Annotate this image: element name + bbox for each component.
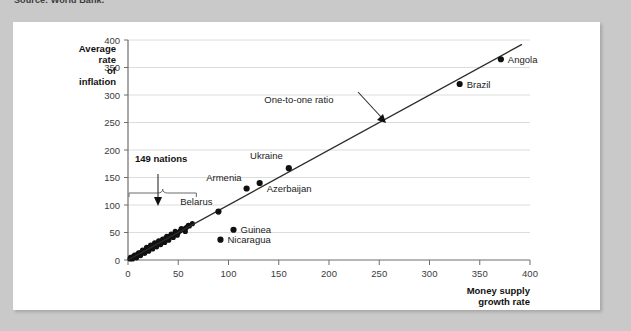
point-label-armenia: Armenia	[206, 172, 242, 183]
y-tick-label: 250	[104, 117, 120, 128]
x-tick-label: 100	[221, 268, 237, 279]
labeled-point-belarus	[215, 209, 221, 215]
labeled-point-nicaragua	[217, 237, 223, 243]
x-axis-ticks	[128, 260, 530, 265]
labeled-point-angola	[498, 56, 504, 62]
point-label-nicaragua: Nicaragua	[227, 234, 271, 245]
point-label-azerbaijan: Azerbaijan	[267, 183, 312, 194]
annotation-one-to-one-ratio: One-to-one ratio	[264, 94, 333, 105]
y-tick-label: 50	[109, 227, 120, 238]
ratio-arrow-shaft	[358, 92, 382, 118]
x-axis-title: Money supplygrowth rate	[467, 285, 531, 307]
x-tick-label: 400	[522, 268, 538, 279]
y-tick-label: 300	[104, 90, 120, 101]
point-label-brazil: Brazil	[467, 79, 491, 90]
source-caption: Source: World Bank.	[14, 0, 104, 5]
y-tick-label: 150	[104, 172, 120, 183]
labeled-point-armenia	[243, 185, 249, 191]
point-label-belarus: Belarus	[180, 196, 212, 207]
x-tick-label: 0	[125, 268, 130, 279]
one-to-one-ratio-annotation	[358, 92, 386, 123]
x-tick-label: 350	[472, 268, 488, 279]
x-tick-label: 250	[371, 268, 387, 279]
x-tick-label: 50	[173, 268, 184, 279]
point-label-ukraine: Ukraine	[250, 150, 283, 161]
point-label-angola: Angola	[508, 54, 538, 65]
annotation-149-nations: 149 nations	[135, 153, 187, 164]
y-tick-label: 0	[115, 255, 120, 266]
labeled-point-guinea	[230, 227, 236, 233]
x-tick-label: 150	[271, 268, 287, 279]
chart-text-layer: 0501001502002503003504000501001502002503…	[79, 35, 538, 308]
y-axis-title: Averagerateofinflation	[79, 43, 117, 87]
figure-panel: 0501001502002503003504000501001502002503…	[13, 22, 600, 310]
y-tick-label: 200	[104, 145, 120, 156]
y-tick-label: 100	[104, 200, 120, 211]
inflation-vs-money-supply-scatter-chart: 0501001502002503003504000501001502002503…	[13, 22, 600, 310]
labeled-point-brazil	[457, 81, 463, 87]
x-tick-label: 200	[321, 268, 337, 279]
labeled-point-ukraine	[286, 165, 292, 171]
x-tick-label: 300	[422, 268, 438, 279]
labeled-point-azerbaijan	[257, 180, 263, 186]
